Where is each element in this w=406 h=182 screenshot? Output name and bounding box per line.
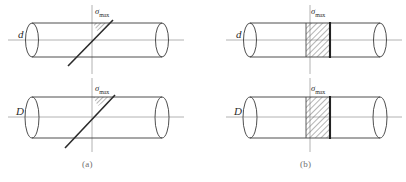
stress-label-a-top: σmax	[95, 6, 109, 18]
stress-label-a-bottom: σmax	[95, 83, 109, 95]
diameter-label-b-bottom: D	[234, 105, 242, 117]
cylinder-right-end-ellipse	[373, 97, 387, 138]
fracture-hatch-band	[306, 97, 330, 138]
cylinder-right-end-ellipse	[155, 97, 169, 138]
caption-a: (a)	[82, 159, 93, 169]
diameter-label-b-top: d	[236, 28, 242, 40]
figure-canvas	[0, 0, 406, 182]
diameter-label-a-top: d	[18, 28, 24, 40]
fracture-hatch-band	[306, 23, 330, 57]
cylinder-left-end-ellipse	[243, 97, 257, 138]
caption-b: (b)	[300, 159, 311, 169]
diameter-label-a-bottom: D	[16, 105, 24, 117]
cylinder-left-end-ellipse	[25, 97, 39, 138]
fracture-plane-inclined	[65, 95, 115, 148]
stress-label-b-top: σmax	[311, 6, 325, 18]
fracture-hatch-wedge	[93, 23, 110, 31]
stress-label-b-bottom: σmax	[311, 83, 325, 95]
fracture-plane-inclined	[68, 20, 113, 66]
